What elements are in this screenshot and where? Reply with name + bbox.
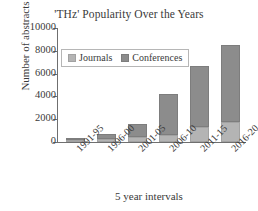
- x-axis-title: 5 year intervals: [40, 190, 258, 202]
- y-tick-label: 6000: [35, 67, 56, 78]
- chart-title: 'THz' Popularity Over the Years: [0, 8, 258, 20]
- plot-area: 0200040006000800010000 1991-951996-00200…: [60, 28, 246, 142]
- y-tick-label: 0: [51, 135, 56, 146]
- bar-segment-conferences: [221, 45, 240, 122]
- legend-item-journals: Journals: [68, 52, 112, 63]
- chart-legend: JournalsConferences: [61, 49, 189, 67]
- y-tick-label: 4000: [35, 89, 56, 100]
- legend-swatch-journals-icon: [68, 54, 76, 62]
- legend-label: Journals: [79, 52, 112, 63]
- y-tick-label: 10000: [30, 21, 56, 32]
- legend-swatch-conferences-icon: [121, 54, 129, 62]
- legend-label: Conferences: [132, 52, 182, 63]
- legend-item-conferences: Conferences: [121, 52, 182, 63]
- y-axis-title: Number of abstracts: [19, 0, 31, 111]
- y-tick-label: 2000: [35, 112, 56, 123]
- chart-figure: 'THz' Popularity Over the Years Number o…: [0, 0, 258, 211]
- y-tick-label: 8000: [35, 44, 56, 55]
- y-axis-line: [57, 28, 58, 143]
- bar-segment-conferences: [190, 66, 209, 127]
- bar-group: [66, 28, 85, 142]
